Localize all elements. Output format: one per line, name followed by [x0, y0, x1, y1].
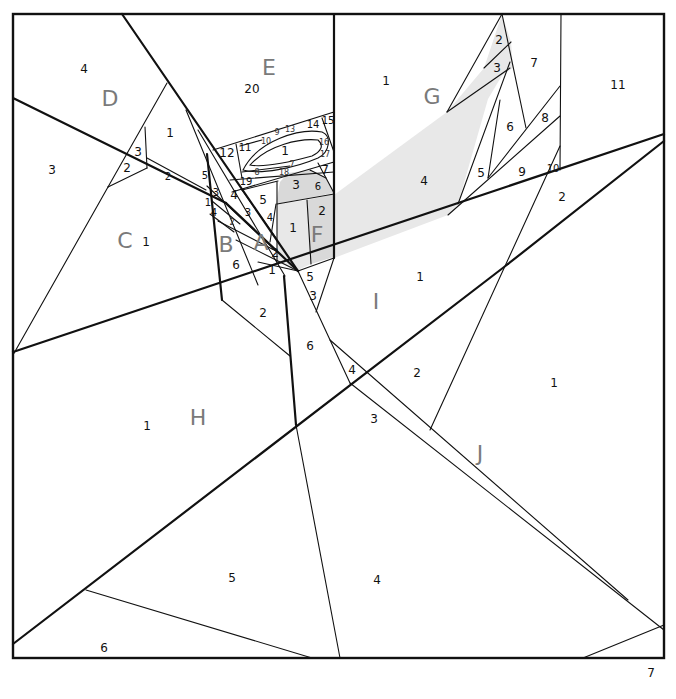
piece-g4: 4: [420, 174, 428, 188]
piece-b6: 6: [232, 258, 240, 272]
piece-d1: 1: [166, 126, 174, 140]
piece-h7: 7: [647, 666, 655, 680]
piece-e1: 1: [281, 144, 289, 158]
piece-g6: 6: [506, 120, 514, 134]
piece-d3: 3: [134, 145, 142, 159]
piece-h2: 2: [259, 306, 267, 320]
piece-c1: 1: [142, 235, 150, 249]
piece-a2: 2: [271, 246, 279, 260]
seam-h5: [13, 264, 508, 644]
piece-f1: 1: [289, 221, 297, 235]
piece-b5: 5: [202, 170, 208, 181]
piece-i3: 3: [309, 289, 317, 303]
piece-g8: 8: [541, 111, 549, 125]
line-d2: [147, 158, 206, 190]
piece-a3: 3: [245, 207, 251, 218]
piece-g10: 10: [547, 163, 560, 174]
piece-g7: 7: [530, 56, 538, 70]
piece-c3: 3: [48, 163, 56, 177]
piece-e16: 16: [319, 138, 329, 147]
line-h2: [222, 300, 290, 356]
piece-a1: 1: [268, 263, 276, 277]
line-j-bottom: [350, 383, 664, 630]
piece-d2: 2: [165, 171, 171, 182]
line-h4: [296, 425, 340, 658]
piece-i4: 4: [348, 363, 356, 377]
piece-i5: 5: [306, 270, 314, 284]
section-label-h: H: [190, 405, 207, 430]
seam-h-i6: [284, 276, 296, 425]
piece-f2: 2: [318, 204, 326, 218]
piece-h4: 4: [373, 573, 381, 587]
piece-e13: 13: [285, 125, 295, 134]
piece-e9: 9: [274, 128, 279, 137]
line-i3: [316, 258, 334, 312]
section-label-g: G: [423, 84, 440, 109]
piece-e18: 18: [279, 168, 289, 177]
piece-b3: 3: [213, 187, 219, 198]
seam-b: [207, 154, 222, 300]
piece-b4: 4: [211, 207, 217, 218]
piece-e14: 14: [307, 119, 320, 130]
piece-f6: 6: [315, 181, 321, 192]
section-label-e: E: [262, 55, 276, 80]
piece-f3: 3: [292, 178, 300, 192]
piece-e11: 11: [239, 142, 252, 153]
piece-numbers: 4 20 1 2 3 7 11 6 8 4 5 9 10 2 1 3 2 3 2…: [48, 33, 655, 680]
piece-h6: 6: [100, 641, 108, 655]
piece-g2: 2: [495, 33, 503, 47]
piece-g3: 3: [493, 61, 501, 75]
section-label-j: J: [475, 441, 484, 466]
line-h7: [583, 625, 664, 658]
seam-dc: [13, 98, 226, 203]
section-label-a: A: [253, 230, 268, 255]
piece-e7: 7: [289, 160, 294, 169]
piece-g9: 9: [518, 165, 526, 179]
piece-e10: 10: [261, 137, 271, 146]
piece-i6: 6: [306, 339, 314, 353]
piece-d4: 4: [80, 62, 88, 76]
piece-c2: 2: [123, 161, 131, 175]
piece-g1: 1: [382, 74, 390, 88]
line-d3: [145, 127, 147, 168]
piece-h5: 5: [228, 571, 236, 585]
shade-g4: [334, 62, 510, 258]
piece-f7: 7: [321, 163, 329, 177]
line-i4: [330, 340, 628, 600]
section-label-c: C: [117, 228, 132, 253]
piece-i1: 1: [416, 270, 424, 284]
piece-b2: 2: [229, 218, 234, 227]
section-label-d: D: [102, 86, 119, 111]
section-label-b: B: [218, 232, 233, 257]
piece-a4: 4: [230, 188, 238, 202]
line-g6: [488, 100, 500, 178]
piece-j2: 2: [558, 190, 566, 204]
seam-hi: [13, 134, 664, 352]
piece-j1: 1: [550, 376, 558, 390]
pattern-canvas: D E G C B A F I H J 4 20 1 2 3 7 11 6 8 …: [0, 0, 676, 699]
piece-h1: 1: [143, 419, 151, 433]
piece-g5: 5: [477, 166, 485, 180]
pattern-diagram: D E G C B A F I H J 4 20 1 2 3 7 11 6 8 …: [0, 0, 676, 699]
piece-e19: 19: [240, 176, 253, 187]
line-c1: [13, 187, 108, 355]
section-label-i: I: [373, 289, 380, 314]
shade-f1: [277, 200, 311, 270]
piece-e17: 17: [320, 150, 330, 159]
piece-e8: 8: [254, 168, 259, 177]
piece-e12: 12: [219, 146, 234, 160]
piece-a5: 5: [259, 193, 267, 207]
section-label-f: F: [311, 222, 324, 247]
piece-e15: 15: [322, 115, 335, 126]
piece-i2: 2: [413, 366, 421, 380]
line-h6: [86, 590, 312, 658]
piece-h3: 3: [370, 412, 378, 426]
piece-e20: 20: [244, 82, 259, 96]
piece-g11: 11: [610, 78, 625, 92]
piece-f4: 4: [267, 212, 273, 223]
